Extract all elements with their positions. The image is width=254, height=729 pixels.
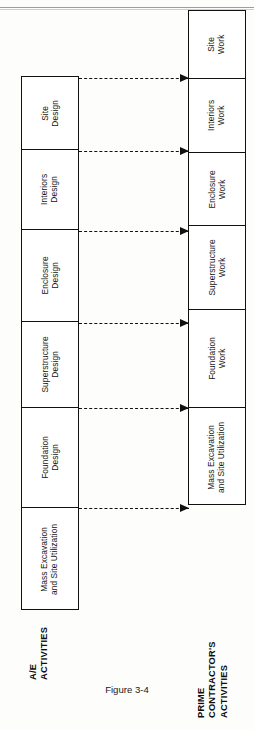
ae-cell-foundation-design-line2: Design xyxy=(50,436,60,479)
pc-cell-enclosure-work-line1: Enclosure xyxy=(207,170,217,208)
ae-cell-enclosure-design-label: Enclosure Design xyxy=(40,256,61,294)
connector-arrow-6-line xyxy=(79,508,189,509)
pc-cell-interiors-work-line1: Interiors xyxy=(207,100,217,131)
connector-arrow-5-head xyxy=(180,404,189,412)
connector-arrow-2-line xyxy=(79,151,189,152)
ae-cell-superstructure-design-line1: Superstructure xyxy=(40,336,50,392)
ae-cell-foundation-design-line1: Foundation xyxy=(40,436,50,479)
pc-cell-mass-excavation-work: Mass Excavation and Site Utilization xyxy=(189,408,245,506)
ae-cell-mass-excavation: Mass Excavation and Site Utilization xyxy=(22,508,78,611)
pc-cell-enclosure-work-line2: Work xyxy=(217,170,227,208)
pc-cell-foundation-work-line2: Work xyxy=(217,337,227,380)
pc-cell-superstructure-work-label: Superstructure Work xyxy=(207,239,228,295)
pc-cell-interiors-work-label: Interiors Work xyxy=(207,100,228,131)
figure-page: Site Design Interiors Design Enclosure D… xyxy=(0,0,254,729)
pc-cell-superstructure-work-line1: Superstructure xyxy=(207,239,217,295)
pc-cell-mass-excavation-work-line2: and Site Utilization xyxy=(217,421,227,492)
pc-cell-site-work-line2: Work xyxy=(217,35,227,55)
ae-cell-superstructure-design: Superstructure Design xyxy=(22,322,78,408)
connector-arrow-2-head xyxy=(180,147,189,155)
ae-cell-enclosure-design-line1: Enclosure xyxy=(40,256,50,294)
ae-cell-site-design-label: Site Design xyxy=(40,100,61,127)
connector-arrow-3-head xyxy=(180,227,189,235)
prime-contractor-group-caption: PRIME CONTRACTOR'S ACTIVITIES xyxy=(196,641,230,718)
pc-cell-interiors-work-line2: Work xyxy=(217,100,227,131)
figure-caption: Figure 3-4 xyxy=(0,684,254,695)
pc-cell-enclosure-work: Enclosure Work xyxy=(189,153,245,226)
pc-cell-site-work-label: Site Work xyxy=(207,35,228,55)
ae-cell-enclosure-design: Enclosure Design xyxy=(22,230,78,322)
pc-cell-superstructure-work: Superstructure Work xyxy=(189,226,245,310)
prime-contractor-caption-line1: PRIME xyxy=(196,641,207,718)
pc-cell-foundation-work: Foundation Work xyxy=(189,310,245,408)
prime-contractor-caption-line3: ACTIVITIES xyxy=(219,641,230,718)
ae-cell-interiors-design-line1: Interiors xyxy=(40,174,50,205)
scan-seam-line xyxy=(0,7,254,8)
connector-arrow-1-head xyxy=(180,74,189,82)
pc-cell-mass-excavation-work-label: Mass Excavation and Site Utilization xyxy=(207,421,228,492)
connector-arrow-3-line xyxy=(79,231,189,232)
pc-cell-foundation-work-line1: Foundation xyxy=(207,337,217,380)
pc-cell-site-work: Site Work xyxy=(189,11,245,79)
ae-cell-mass-excavation-label: Mass Excavation and Site Utilization xyxy=(40,524,61,595)
ae-cell-site-design-line2: Design xyxy=(50,100,60,127)
ae-activities-caption-line1: A/E xyxy=(28,627,39,680)
pc-cell-mass-excavation-work-line1: Mass Excavation xyxy=(207,425,217,490)
ae-cell-interiors-design: Interiors Design xyxy=(22,150,78,230)
pc-cell-interiors-work: Interiors Work xyxy=(189,79,245,153)
connector-arrow-4-head xyxy=(180,319,189,327)
ae-cell-mass-excavation-line1: Mass Excavation xyxy=(40,527,50,592)
ae-activities-column: Site Design Interiors Design Enclosure D… xyxy=(21,76,79,610)
ae-cell-superstructure-design-label: Superstructure Design xyxy=(40,336,61,392)
ae-cell-interiors-design-label: Interiors Design xyxy=(40,174,61,205)
ae-activities-caption-line2: ACTIVITIES xyxy=(39,627,50,680)
ae-cell-mass-excavation-line2: and Site Utilization xyxy=(50,524,60,595)
pc-cell-site-work-line1: Site xyxy=(207,37,217,52)
connector-arrow-4-line xyxy=(79,323,189,324)
ae-cell-superstructure-design-line2: Design xyxy=(50,336,60,392)
ae-cell-site-design-line1: Site xyxy=(40,106,50,121)
ae-cell-enclosure-design-line2: Design xyxy=(50,256,60,294)
ae-cell-foundation-design-label: Foundation Design xyxy=(40,436,61,479)
pc-cell-superstructure-work-line2: Work xyxy=(217,239,227,295)
prime-contractor-activities-column: Site Work Interiors Work Enclosure Work … xyxy=(188,10,246,505)
ae-cell-foundation-design: Foundation Design xyxy=(22,408,78,508)
pc-cell-foundation-work-label: Foundation Work xyxy=(207,337,228,380)
connector-arrow-6-head xyxy=(180,504,189,512)
connector-arrow-5-line xyxy=(79,408,189,409)
ae-activities-group-caption: A/E ACTIVITIES xyxy=(28,627,51,680)
pc-cell-enclosure-work-label: Enclosure Work xyxy=(207,170,228,208)
ae-cell-site-design: Site Design xyxy=(22,77,78,150)
connector-arrow-1-line xyxy=(79,78,189,79)
ae-cell-interiors-design-line2: Design xyxy=(50,174,60,205)
prime-contractor-caption-line2: CONTRACTOR'S xyxy=(207,641,218,718)
